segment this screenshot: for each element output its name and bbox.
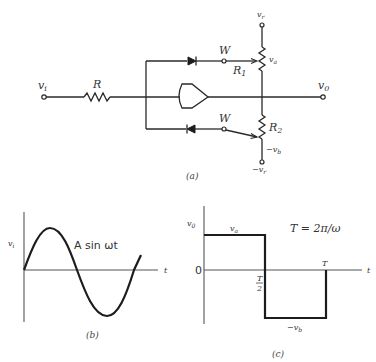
figure: vi R v0 W W R1 R2 vr −vr va −vb (a) vi t… [0, 0, 376, 362]
pot-r2 [259, 115, 265, 139]
period-label: T [322, 259, 328, 268]
plot-b-xlabel: t [164, 266, 168, 275]
diode-top-icon [188, 57, 196, 66]
pot-r1 [259, 47, 265, 71]
vr-bottom-terminal [260, 160, 264, 164]
period-formula: T = 2π/ω [290, 222, 340, 235]
plot-c-xlabel: t [367, 266, 371, 275]
caption-c: (c) [272, 349, 285, 359]
amplifier-icon [179, 84, 208, 108]
resistor-r [84, 93, 110, 101]
plot-b: vi t A sin ωt (b) [8, 212, 168, 340]
vb-label: −vb [266, 145, 281, 155]
plot-c: v0 0 t va −vb T 2 T T = 2π/ω (c) [187, 206, 371, 359]
caption-a: (a) [186, 171, 199, 181]
diode-bottom-icon [187, 125, 195, 134]
wiper-bottom [226, 130, 257, 137]
half-period-den: 2 [256, 284, 262, 293]
va-label: va [269, 55, 278, 65]
va-level-label: va [230, 224, 239, 234]
output-label: v0 [318, 79, 329, 93]
r1-label: R1 [232, 64, 246, 78]
circuit-diagram: vi R v0 W W R1 R2 vr −vr va −vb (a) [38, 10, 329, 181]
vb-level-label: −vb [287, 323, 302, 333]
vr-top-label: vr [257, 10, 266, 20]
plot-c-zero: 0 [195, 264, 202, 277]
plot-b-ylabel: vi [8, 239, 15, 249]
input-label: vi [38, 79, 47, 93]
vr-bottom-label: −vr [252, 165, 267, 175]
switch-w-bottom [222, 127, 226, 131]
input-terminal [42, 95, 46, 99]
r2-label: R2 [268, 121, 282, 135]
half-period-num: T [257, 274, 263, 283]
resistor-label: R [92, 78, 101, 91]
square-wave [204, 235, 326, 318]
output-terminal [321, 95, 325, 99]
sine-label: A sin ωt [74, 239, 118, 252]
plot-c-ylabel: v0 [187, 219, 196, 229]
w-bottom-label: W [219, 112, 232, 125]
w-top-label: W [219, 44, 232, 57]
caption-b: (b) [86, 330, 99, 340]
switch-w-top [222, 59, 226, 63]
vr-top-terminal [260, 23, 264, 27]
